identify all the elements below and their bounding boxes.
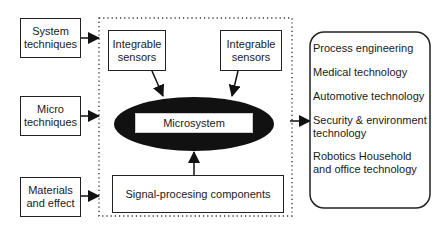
sensor-box-right: Integrable sensors xyxy=(220,30,282,71)
sensor-label: Integrable sensors xyxy=(221,38,281,64)
arrow-sensor-right xyxy=(232,71,238,96)
signal-label: Signal-procesing components xyxy=(126,188,271,201)
input-label: System techniques xyxy=(21,25,80,51)
input-box-micro-techniques: Micro techniques xyxy=(20,96,81,136)
application-item: Automotive technology xyxy=(313,90,424,103)
arrow-sensor-left xyxy=(152,71,163,96)
application-item: Medical technology xyxy=(313,66,407,79)
microsystem-label-box: Microsystem xyxy=(135,113,253,133)
signal-processing-box: Signal-procesing components xyxy=(112,175,284,213)
input-label: Materials and effect xyxy=(21,184,80,210)
input-label: Micro techniques xyxy=(21,103,80,129)
input-box-system-techniques: System techniques xyxy=(20,18,81,58)
input-box-materials: Materials and effect xyxy=(20,177,81,217)
application-item: Process engineering xyxy=(313,42,413,55)
sensor-box-left: Integrable sensors xyxy=(108,30,166,71)
microsystem-label: Microsystem xyxy=(163,117,225,130)
application-item: Security & environment technology xyxy=(313,114,431,140)
sensor-label: Integrable sensors xyxy=(109,38,165,64)
application-item: Robotics Household and office technology xyxy=(313,150,423,176)
